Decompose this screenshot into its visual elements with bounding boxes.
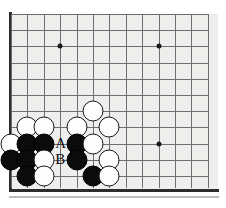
go-board-diagram: AB bbox=[0, 0, 226, 208]
white-stone bbox=[99, 166, 120, 187]
point-label-b: B bbox=[55, 152, 65, 167]
board-edge-bottom bbox=[9, 189, 219, 192]
grid-line-horizontal bbox=[11, 63, 208, 64]
hoshi-upper-left-icon bbox=[58, 44, 63, 49]
white-stone bbox=[33, 166, 54, 187]
grid-line-vertical bbox=[191, 14, 192, 188]
grid-line-horizontal bbox=[11, 30, 208, 31]
grid-line-horizontal bbox=[11, 111, 208, 112]
grid-line-vertical bbox=[208, 14, 209, 188]
grid-line-horizontal bbox=[11, 95, 208, 96]
grid-line-vertical bbox=[126, 14, 127, 188]
grid-line-horizontal bbox=[11, 46, 208, 47]
white-stone bbox=[83, 101, 104, 122]
white-stone bbox=[99, 117, 120, 138]
grid-line-vertical bbox=[142, 14, 143, 188]
board-shadow-line bbox=[9, 196, 219, 198]
grid-line-horizontal bbox=[11, 79, 208, 80]
hoshi-lower-right-icon bbox=[156, 141, 161, 146]
grid-line-vertical bbox=[159, 14, 160, 188]
point-label-a: A bbox=[55, 136, 66, 151]
black-stone bbox=[66, 149, 87, 170]
grid-line-vertical bbox=[175, 14, 176, 188]
white-stone bbox=[83, 133, 104, 154]
grid-line-horizontal bbox=[11, 14, 208, 15]
hoshi-upper-right-icon bbox=[156, 44, 161, 49]
